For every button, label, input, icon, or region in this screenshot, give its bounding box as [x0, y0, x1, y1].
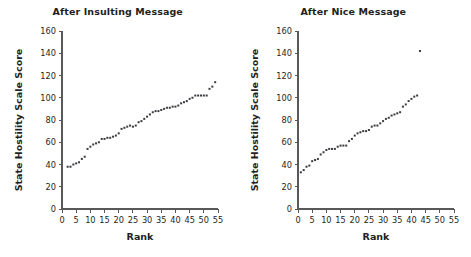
x-tick-label: 5 [309, 215, 314, 225]
x-tick-label: 25 [128, 215, 138, 225]
data-point [367, 129, 369, 131]
data-point [325, 149, 327, 151]
data-point [112, 136, 114, 138]
data-point [155, 110, 157, 112]
data-point [399, 111, 401, 113]
data-point [84, 156, 86, 158]
data-point [353, 135, 355, 137]
x-tick-label: 40 [170, 215, 180, 225]
data-point [314, 159, 316, 161]
y-tick-label: 120 [276, 71, 292, 81]
data-point [118, 132, 120, 134]
data-point [416, 95, 418, 97]
data-point [404, 103, 406, 105]
data-point [157, 110, 159, 112]
data-point [101, 138, 103, 140]
x-tick-label: 45 [420, 215, 430, 225]
plot-area-nice: 0204060801001201401600510152025303540455… [236, 0, 471, 257]
data-point [152, 111, 154, 113]
x-tick-label: 20 [349, 215, 359, 225]
data-point [106, 137, 108, 139]
data-point [308, 165, 310, 167]
data-point [333, 148, 335, 150]
y-tick-label: 60 [281, 137, 291, 147]
data-point [328, 148, 330, 150]
x-tick-label: 15 [335, 215, 345, 225]
y-tick-label: 0 [51, 204, 56, 214]
data-point [160, 109, 162, 111]
data-point [331, 148, 333, 150]
x-tick-label: 45 [184, 215, 194, 225]
data-point [92, 143, 94, 145]
y-tick-label: 40 [46, 160, 56, 170]
x-tick-label: 5 [74, 215, 79, 225]
y-tick-label: 100 [276, 93, 292, 103]
x-tick-label: 40 [406, 215, 416, 225]
data-point [203, 95, 205, 97]
data-point [121, 128, 123, 130]
x-tick-label: 55 [213, 215, 223, 225]
data-point [302, 169, 304, 171]
data-point [166, 107, 168, 109]
data-point [98, 141, 100, 143]
data-point [87, 148, 89, 150]
data-point [89, 146, 91, 148]
data-point [407, 100, 409, 102]
x-tick-label: 35 [392, 215, 402, 225]
data-point [146, 116, 148, 118]
data-point [362, 130, 364, 132]
x-axis-title: Rank [127, 231, 154, 242]
data-point [172, 106, 174, 108]
data-point [339, 145, 341, 147]
data-point [299, 171, 301, 173]
data-point [359, 131, 361, 133]
data-point [384, 118, 386, 120]
y-tick-label: 0 [286, 204, 291, 214]
y-tick-label: 20 [46, 182, 56, 192]
y-axis-title: State Hostility Scale Score [249, 49, 260, 192]
data-point [95, 142, 97, 144]
data-point [319, 153, 321, 155]
data-point [143, 118, 145, 120]
x-tick-label: 50 [434, 215, 444, 225]
data-point [342, 145, 344, 147]
data-point [186, 100, 188, 102]
y-tick-label: 60 [46, 137, 56, 147]
data-point [208, 88, 210, 90]
x-tick-label: 25 [363, 215, 373, 225]
data-point [126, 126, 128, 128]
panel-nice-message: After Nice Message 020406080100120140160… [236, 0, 471, 257]
x-tick-label: 55 [448, 215, 458, 225]
data-point [70, 166, 72, 168]
y-tick-label: 140 [276, 48, 292, 58]
y-tick-label: 160 [40, 26, 56, 36]
data-point [356, 132, 358, 134]
data-point [413, 96, 415, 98]
data-point [140, 120, 142, 122]
y-tick-label: 80 [46, 115, 56, 125]
data-point [393, 113, 395, 115]
y-axis-title: State Hostility Scale Score [13, 49, 24, 192]
y-tick-label: 100 [40, 93, 56, 103]
data-point [387, 117, 389, 119]
data-point [316, 158, 318, 160]
y-tick-label: 20 [281, 182, 291, 192]
data-point [197, 95, 199, 97]
x-tick-label: 0 [295, 215, 300, 225]
data-point [214, 81, 216, 83]
data-point [211, 86, 213, 88]
data-point [206, 95, 208, 97]
data-point [322, 151, 324, 153]
data-point [191, 97, 193, 99]
panel-insulting-message: After Insulting Message 0204060801001201… [0, 0, 236, 257]
data-point [200, 95, 202, 97]
data-point [129, 125, 131, 127]
data-point [81, 158, 83, 160]
data-point [348, 140, 350, 142]
data-point [410, 98, 412, 100]
data-point [135, 125, 137, 127]
data-point [180, 102, 182, 104]
x-tick-label: 20 [114, 215, 124, 225]
y-tick-label: 160 [276, 26, 292, 36]
data-point [373, 125, 375, 127]
